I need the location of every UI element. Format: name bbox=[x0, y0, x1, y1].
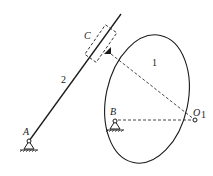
o1-pivot-icon bbox=[193, 118, 197, 122]
b-ground-pivot-icon bbox=[106, 119, 124, 132]
label-o1: O bbox=[193, 107, 200, 118]
a-ground-pivot-icon bbox=[20, 139, 38, 152]
label-b: B bbox=[110, 106, 116, 117]
diagram-canvas: A B C O 1 1 2 bbox=[0, 0, 213, 176]
label-o1-subscript: 1 bbox=[201, 109, 206, 120]
follower-rod bbox=[29, 14, 121, 141]
contact-triangle-icon bbox=[104, 47, 111, 54]
mechanism-diagram: A B C O 1 1 2 bbox=[0, 0, 213, 176]
label-c: C bbox=[84, 30, 91, 41]
cam-disk bbox=[93, 27, 200, 171]
label-part-1: 1 bbox=[152, 57, 157, 68]
label-a: A bbox=[22, 126, 30, 137]
label-part-2: 2 bbox=[61, 74, 66, 85]
